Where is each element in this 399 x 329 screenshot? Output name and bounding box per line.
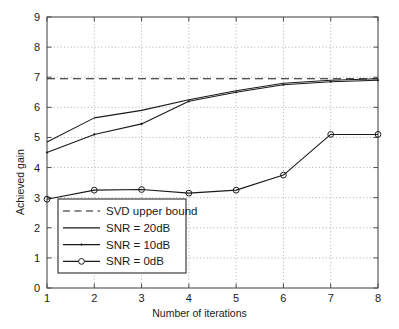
y-tick-label: 8 bbox=[34, 41, 40, 53]
legend-label: SVD upper bound bbox=[106, 205, 197, 217]
x-tick-label: 1 bbox=[44, 292, 50, 304]
y-tick-label: 2 bbox=[34, 222, 40, 234]
y-axis-label: Achieved gain bbox=[14, 149, 26, 215]
chart-figure: 123456780123456789 SVD upper boundSNR = … bbox=[0, 0, 399, 329]
x-tick-label: 8 bbox=[375, 292, 381, 304]
y-tick-label: 1 bbox=[34, 252, 40, 264]
legend-label: SNR = 0dB bbox=[106, 255, 164, 267]
x-tick-label: 2 bbox=[91, 292, 97, 304]
x-axis-label: Number of iterations bbox=[0, 307, 399, 319]
chart-legend: SVD upper boundSNR = 20dBSNR = 10dBSNR =… bbox=[58, 199, 197, 273]
y-tick-label: 5 bbox=[34, 131, 40, 143]
legend-label: SNR = 10dB bbox=[106, 239, 171, 251]
legend-label: SNR = 20dB bbox=[106, 222, 171, 234]
y-tick-label: 3 bbox=[34, 192, 40, 204]
y-tick-label: 0 bbox=[34, 282, 40, 294]
x-tick-label: 3 bbox=[139, 292, 145, 304]
x-tick-label: 7 bbox=[328, 292, 334, 304]
x-tick-label: 5 bbox=[233, 292, 239, 304]
chart-canvas: 123456780123456789 SVD upper boundSNR = … bbox=[0, 0, 399, 329]
y-tick-label: 7 bbox=[34, 71, 40, 83]
y-tick-label: 4 bbox=[34, 162, 40, 174]
x-tick-label: 4 bbox=[186, 292, 192, 304]
y-tick-label: 9 bbox=[34, 11, 40, 23]
y-tick-label: 6 bbox=[34, 101, 40, 113]
x-tick-label: 6 bbox=[280, 292, 286, 304]
